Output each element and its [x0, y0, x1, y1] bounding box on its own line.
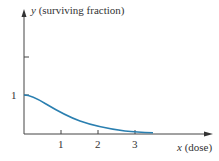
y-tick-label-1: 1 [11, 90, 17, 101]
survival-curve [24, 95, 153, 133]
chart-canvas [0, 0, 219, 161]
x-axis-label: x (dose) [177, 142, 212, 153]
x-tick-label-2: 2 [95, 139, 101, 150]
x-tick-label-1: 1 [58, 139, 64, 150]
y-axis-label: y (surviving fraction) [31, 5, 124, 16]
x-axis-arrow-icon [204, 132, 213, 137]
x-tick-label-3: 3 [132, 139, 138, 150]
y-axis-arrow-icon [22, 9, 27, 17]
